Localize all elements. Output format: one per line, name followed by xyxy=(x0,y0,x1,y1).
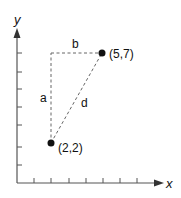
y-axis-arrow-icon xyxy=(14,28,21,38)
x-ticks xyxy=(34,178,137,183)
segment-d-label: d xyxy=(81,96,88,110)
triangle xyxy=(51,53,102,143)
segment-d xyxy=(51,53,102,143)
distance-diagram: y x a b d (2,2) (5,7) xyxy=(0,0,181,198)
point-2-2 xyxy=(48,140,55,147)
y-axis-label: y xyxy=(13,12,22,27)
y-ticks xyxy=(17,53,22,165)
x-axis-arrow-icon xyxy=(154,180,164,187)
point-5-7 xyxy=(99,50,106,57)
segment-a-label: a xyxy=(40,91,47,105)
x-axis-label: x xyxy=(165,176,173,191)
segment-b-label: b xyxy=(72,37,79,51)
point-2-2-label: (2,2) xyxy=(58,141,83,155)
point-5-7-label: (5,7) xyxy=(109,47,134,61)
